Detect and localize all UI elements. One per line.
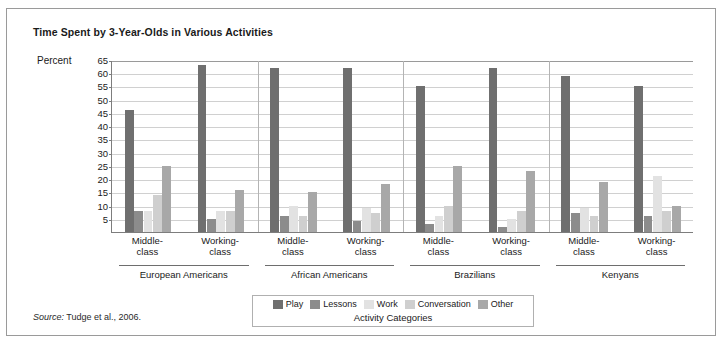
bar-conversation-european-americans-middle-class xyxy=(153,195,162,232)
y-axis-tick-label: 65 xyxy=(97,56,108,66)
legend-items: PlayLessonsWorkConversationOther xyxy=(253,299,533,309)
group-rule xyxy=(119,265,249,266)
bar-conversation-african-americans-middle-class xyxy=(299,216,308,232)
group-rule xyxy=(265,265,395,266)
legend-swatch-conversation xyxy=(405,300,415,309)
category-label-line1: Middle- xyxy=(548,235,620,246)
category-label-line2: class xyxy=(402,246,474,257)
bar-other-european-americans-working-class xyxy=(235,190,244,232)
y-axis-tick-label: 60 xyxy=(97,69,108,79)
category-label-line2: class xyxy=(111,246,183,257)
bar-work-kenyans-working-class xyxy=(653,176,662,232)
category-labels: Middle-classWorking-classMiddle-classWor… xyxy=(111,235,693,261)
category-label-line1: Working- xyxy=(475,235,547,246)
category-label-line2: class xyxy=(475,246,547,257)
legend-swatch-work xyxy=(364,300,374,309)
group-rule xyxy=(556,265,686,266)
bar-other-brazilians-working-class xyxy=(526,171,535,232)
bar-conversation-brazilians-middle-class xyxy=(444,206,453,232)
legend-swatch-lessons xyxy=(310,300,320,309)
bar-other-european-americans-middle-class xyxy=(162,166,171,232)
bar-work-brazilians-middle-class xyxy=(435,216,444,232)
category-label: Middle-class xyxy=(402,235,474,257)
y-axis-tick-label: 55 xyxy=(97,83,108,93)
y-axis-tick-label: 25 xyxy=(97,162,108,172)
category-label: Middle-class xyxy=(257,235,329,257)
y-axis-title: Percent xyxy=(37,55,71,66)
category-label-line2: class xyxy=(330,246,402,257)
bar-work-african-americans-middle-class xyxy=(289,206,298,232)
y-axis-tick-label: 10 xyxy=(97,202,108,212)
plot-wrapper: 5101520253035404550556065 xyxy=(83,61,693,233)
category-label-line2: class xyxy=(548,246,620,257)
bar-play-european-americans-working-class xyxy=(198,65,207,232)
legend-label-work: Work xyxy=(377,299,398,309)
legend-item-work[interactable]: Work xyxy=(364,299,398,309)
legend-swatch-other xyxy=(478,300,488,309)
bar-work-european-americans-working-class xyxy=(216,211,225,232)
legend-label-lessons: Lessons xyxy=(323,299,357,309)
y-axis-tick-label: 35 xyxy=(97,136,108,146)
figure-title: Time Spent by 3-Year-Olds in Various Act… xyxy=(33,26,273,38)
source-note: Source: Tudge et al., 2006. xyxy=(33,312,141,322)
category-label-line1: Middle- xyxy=(402,235,474,246)
bar-lessons-brazilians-middle-class xyxy=(425,224,434,232)
bar-other-kenyans-middle-class xyxy=(599,182,608,232)
x-axis-title: Activity Categories xyxy=(253,312,533,323)
category-label: Working-class xyxy=(475,235,547,257)
group-name-kenyans: Kenyans xyxy=(556,269,686,280)
bar-play-kenyans-working-class xyxy=(634,86,643,232)
source-citation: Tudge et al., 2006. xyxy=(64,312,141,322)
source-prefix: Source: xyxy=(33,312,64,322)
bar-play-kenyans-middle-class xyxy=(561,76,570,232)
category-label: Working-class xyxy=(184,235,256,257)
bar-lessons-kenyans-middle-class xyxy=(571,213,580,232)
bar-work-european-americans-middle-class xyxy=(144,211,153,232)
category-label-line1: Working- xyxy=(184,235,256,246)
bar-work-african-americans-working-class xyxy=(362,208,371,232)
group-rule xyxy=(410,265,540,266)
group-name-european-americans: European Americans xyxy=(119,269,249,280)
group-name-african-americans: African Americans xyxy=(265,269,395,280)
y-axis-tick-label: 45 xyxy=(97,109,108,119)
legend-item-other[interactable]: Other xyxy=(478,299,514,309)
category-label-line2: class xyxy=(184,246,256,257)
bar-lessons-european-americans-middle-class xyxy=(134,211,143,232)
y-axis-tick-label: 5 xyxy=(103,215,108,225)
group-labels: European AmericansAfrican AmericansBrazi… xyxy=(111,265,693,291)
bar-play-european-americans-middle-class xyxy=(125,110,134,232)
bar-play-african-americans-working-class xyxy=(343,68,352,232)
y-axis-tick-label: 20 xyxy=(97,175,108,185)
y-axis-tick-label: 50 xyxy=(97,96,108,106)
bars-layer xyxy=(112,61,693,232)
bar-other-brazilians-middle-class xyxy=(453,166,462,232)
y-axis-tick-label: 40 xyxy=(97,122,108,132)
bar-conversation-brazilians-working-class xyxy=(517,211,526,232)
plot-area: 5101520253035404550556065 xyxy=(111,61,693,233)
bar-work-brazilians-working-class xyxy=(507,219,516,232)
legend: PlayLessonsWorkConversationOther Activit… xyxy=(252,295,534,327)
category-label-line1: Working- xyxy=(330,235,402,246)
category-label-line1: Middle- xyxy=(111,235,183,246)
bar-lessons-brazilians-working-class xyxy=(498,227,507,232)
y-axis-tick-label: 30 xyxy=(97,149,108,159)
category-label: Working-class xyxy=(330,235,402,257)
bar-work-kenyans-middle-class xyxy=(580,208,589,232)
legend-item-conversation[interactable]: Conversation xyxy=(405,299,471,309)
category-label-line2: class xyxy=(621,246,693,257)
legend-item-play[interactable]: Play xyxy=(273,299,304,309)
bar-conversation-kenyans-middle-class xyxy=(590,216,599,232)
bar-other-african-americans-working-class xyxy=(381,184,390,232)
bar-conversation-european-americans-working-class xyxy=(226,211,235,232)
bar-lessons-kenyans-working-class xyxy=(644,216,653,232)
bar-other-african-americans-middle-class xyxy=(308,192,317,232)
bar-lessons-african-americans-middle-class xyxy=(280,216,289,232)
bar-play-african-americans-middle-class xyxy=(270,68,279,232)
category-label-line1: Working- xyxy=(621,235,693,246)
bar-lessons-european-americans-working-class xyxy=(207,219,216,232)
legend-swatch-play xyxy=(273,300,283,309)
bar-conversation-african-americans-working-class xyxy=(371,213,380,232)
category-label: Middle-class xyxy=(548,235,620,257)
category-label-line1: Middle- xyxy=(257,235,329,246)
legend-item-lessons[interactable]: Lessons xyxy=(310,299,357,309)
